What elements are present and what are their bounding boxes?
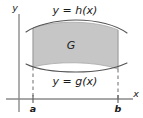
tick-label-a: a (30, 103, 36, 114)
shaded-region-g (33, 22, 118, 69)
tick-label-b: b (115, 103, 122, 114)
figure-container: y x y = h(x) y = g(x) G a b (0, 0, 143, 118)
x-axis-label: x (132, 88, 139, 99)
region-label-g: G (67, 39, 76, 52)
lower-curve-label: y = g(x) (52, 75, 98, 88)
region-between-curves-figure: y x y = h(x) y = g(x) G a b (0, 0, 143, 118)
upper-curve-label: y = h(x) (52, 4, 98, 17)
y-axis-label: y (11, 2, 18, 13)
